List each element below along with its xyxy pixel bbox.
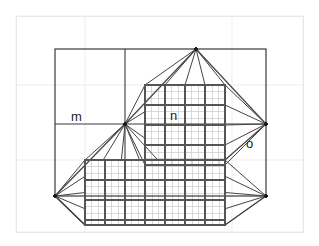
top-apex-node-dot[interactable] [194, 47, 198, 51]
right-vanishing-node-dot[interactable] [264, 122, 268, 126]
label-n: n [170, 108, 177, 123]
label-m: m [71, 109, 82, 124]
diagram-canvas: mno [0, 0, 319, 246]
label-o: o [246, 136, 253, 151]
geometry-figure: mno [0, 0, 319, 246]
page-background [0, 0, 319, 246]
left-lower-node-dot[interactable] [53, 194, 57, 198]
center-vanishing-node-dot[interactable] [123, 122, 127, 126]
right-lower-node-dot[interactable] [264, 194, 268, 198]
